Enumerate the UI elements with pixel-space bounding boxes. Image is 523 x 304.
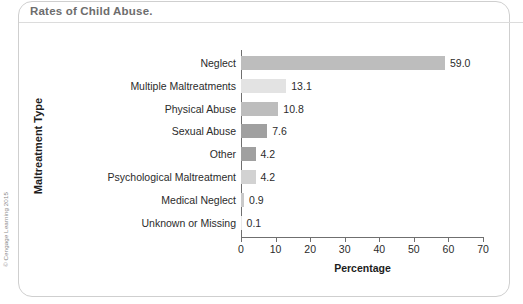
bar-row: Neglect59.0 bbox=[241, 52, 483, 74]
x-tick-label: 50 bbox=[399, 243, 429, 255]
category-label: Psychological Maltreatment bbox=[36, 166, 236, 188]
x-tick-label: 40 bbox=[364, 243, 394, 255]
bar bbox=[241, 102, 278, 116]
bar-row: Physical Abuse10.8 bbox=[241, 98, 483, 120]
x-tick bbox=[448, 237, 449, 242]
bar bbox=[241, 147, 256, 161]
x-tick bbox=[483, 237, 484, 242]
x-tick bbox=[414, 237, 415, 242]
x-axis-title: Percentage bbox=[241, 262, 484, 274]
bar-value-label: 59.0 bbox=[450, 52, 470, 74]
category-label: Multiple Maltreatments bbox=[36, 75, 236, 97]
bar-value-label: 13.1 bbox=[291, 75, 311, 97]
bar-row: Unknown or Missing0.1 bbox=[241, 212, 483, 234]
x-tick-label: 20 bbox=[295, 243, 325, 255]
x-tick bbox=[379, 237, 380, 242]
x-tick bbox=[276, 237, 277, 242]
x-tick-label: 60 bbox=[433, 243, 463, 255]
bar bbox=[241, 216, 242, 230]
bar bbox=[241, 124, 267, 138]
category-label: Sexual Abuse bbox=[36, 120, 236, 142]
bar-row: Medical Neglect0.9 bbox=[241, 189, 483, 211]
x-tick-label: 10 bbox=[261, 243, 291, 255]
category-label: Unknown or Missing bbox=[36, 212, 236, 234]
category-label: Physical Abuse bbox=[36, 98, 236, 120]
bar-row: Multiple Maltreatments13.1 bbox=[241, 75, 483, 97]
x-tick-label: 30 bbox=[330, 243, 360, 255]
bar-row: Other4.2 bbox=[241, 143, 483, 165]
bar bbox=[241, 79, 286, 93]
bar-chart: Maltreatment Type Neglect59.0Multiple Ma… bbox=[0, 0, 523, 304]
category-label: Neglect bbox=[36, 52, 236, 74]
bar-row: Psychological Maltreatment4.2 bbox=[241, 166, 483, 188]
x-tick bbox=[241, 237, 242, 242]
bar bbox=[241, 193, 244, 207]
x-tick bbox=[345, 237, 346, 242]
bar-value-label: 4.2 bbox=[261, 143, 276, 165]
x-tick bbox=[310, 237, 311, 242]
bar-value-label: 0.1 bbox=[247, 212, 262, 234]
x-tick-label: 0 bbox=[226, 243, 256, 255]
bar-row: Sexual Abuse7.6 bbox=[241, 120, 483, 142]
figure-root: Rates of Child Abuse. © Cengage Learning… bbox=[0, 0, 523, 304]
category-label: Other bbox=[36, 143, 236, 165]
x-tick-label: 70 bbox=[468, 243, 498, 255]
category-label: Medical Neglect bbox=[36, 189, 236, 211]
bar-value-label: 10.8 bbox=[283, 98, 303, 120]
bar-value-label: 4.2 bbox=[261, 166, 276, 188]
bar bbox=[241, 56, 445, 70]
bar-value-label: 7.6 bbox=[272, 120, 287, 142]
bar-value-label: 0.9 bbox=[249, 189, 264, 211]
bar bbox=[241, 170, 256, 184]
